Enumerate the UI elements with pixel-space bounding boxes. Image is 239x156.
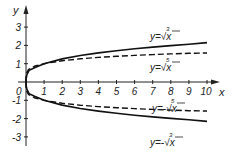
svg-text:y=√x: y=√x (149, 31, 172, 42)
y-tick-label: -1 (12, 95, 21, 106)
y-axis-label: y (12, 4, 20, 16)
svg-text:y=-√x: y=-√x (149, 137, 176, 148)
y-axis-arrow-icon (24, 5, 29, 14)
label-cbrt-positive: y=√x 3 (149, 26, 180, 42)
curve-fifth-root-positive (26, 53, 207, 82)
y-tick-label: -3 (12, 132, 21, 143)
x-tick-label: 4 (96, 86, 102, 97)
x-tick-label: 2 (58, 86, 65, 97)
x-tick-label: 9 (186, 86, 192, 97)
x-tick-label: 5 (114, 86, 120, 97)
svg-text:y=-√x: y=-√x (151, 103, 178, 114)
label-cbrt-negative: y=-√x 3 (149, 132, 183, 148)
y-tick-label: -2 (12, 114, 21, 125)
y-tick-label: 1 (15, 59, 21, 70)
x-tick-labels: 1 2 3 4 5 6 7 8 9 10 (41, 86, 212, 97)
svg-text:y=√x: y=√x (149, 62, 172, 73)
x-tick-label: 10 (200, 86, 212, 97)
x-tick-label: 8 (168, 86, 174, 97)
x-tick-label: 7 (150, 86, 156, 97)
label-fifth-root-negative: y=-√x 5 (151, 98, 185, 114)
y-tick-label: 2 (14, 40, 21, 51)
x-axis-arrow-icon (211, 80, 220, 85)
y-tick-label: 3 (15, 22, 21, 33)
x-axis-label: x (218, 86, 225, 98)
x-tick-label: 6 (132, 86, 138, 97)
root-functions-chart: 1 2 3 4 5 6 7 8 9 10 x 0 1 2 3 -1 -2 -3 … (0, 0, 239, 156)
x-tick-label: 3 (78, 86, 84, 97)
axes (18, 10, 215, 146)
label-fifth-root-positive: y=√x 5 (149, 57, 180, 73)
x-tick-label: 1 (41, 86, 47, 97)
